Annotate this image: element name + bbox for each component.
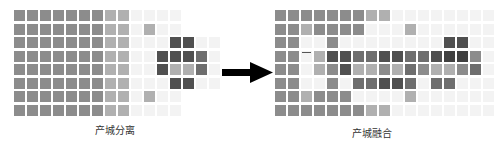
grid-cell bbox=[275, 105, 286, 116]
grid-cell bbox=[444, 64, 455, 75]
grid-cell bbox=[327, 51, 338, 62]
grid-cell bbox=[379, 105, 390, 116]
grid-cell bbox=[418, 78, 429, 89]
grid-cell bbox=[118, 51, 129, 62]
grid-cell bbox=[457, 78, 468, 89]
grid-cell bbox=[301, 78, 312, 89]
grid-cell bbox=[79, 105, 90, 116]
grid-cell bbox=[92, 37, 103, 48]
grid-cell bbox=[40, 105, 51, 116]
grid-cell bbox=[53, 105, 64, 116]
grid-cell bbox=[92, 10, 103, 21]
grid-cell bbox=[301, 105, 312, 116]
grid-cell bbox=[353, 51, 364, 62]
grid-cell bbox=[131, 78, 142, 89]
grid-cell bbox=[79, 91, 90, 102]
grid-cell bbox=[405, 105, 416, 116]
grid-cell bbox=[170, 51, 181, 62]
grid-cell bbox=[353, 78, 364, 89]
grid-cell bbox=[444, 105, 455, 116]
grid-cell bbox=[301, 37, 312, 48]
grid-cell bbox=[392, 10, 403, 21]
grid-cell bbox=[66, 37, 77, 48]
grid-cell bbox=[431, 37, 442, 48]
grid-cell bbox=[79, 24, 90, 35]
grid-cell bbox=[170, 78, 181, 89]
grid-cell bbox=[157, 37, 168, 48]
grid-cell bbox=[66, 24, 77, 35]
grid-cell bbox=[66, 105, 77, 116]
grid-cell bbox=[483, 105, 494, 116]
grid-cell bbox=[483, 24, 494, 35]
grid-cell bbox=[183, 51, 194, 62]
grid-cell bbox=[418, 24, 429, 35]
grid-cell bbox=[144, 24, 155, 35]
grid-cell bbox=[366, 105, 377, 116]
grid-cell bbox=[275, 64, 286, 75]
grid-cell bbox=[105, 10, 116, 21]
grid-cell bbox=[183, 64, 194, 75]
grid-cell bbox=[275, 51, 286, 62]
grid-cell bbox=[144, 37, 155, 48]
grid-cell bbox=[14, 78, 25, 89]
grid-cell bbox=[288, 37, 299, 48]
grid-cell bbox=[470, 64, 481, 75]
grid-cell bbox=[392, 37, 403, 48]
grid-cell bbox=[457, 24, 468, 35]
grid-cell bbox=[118, 37, 129, 48]
grid-cell bbox=[353, 91, 364, 102]
grid-cell bbox=[444, 10, 455, 21]
integration-label: 产城融合 bbox=[352, 125, 392, 140]
grid-cell bbox=[157, 91, 168, 102]
grid-cell bbox=[444, 91, 455, 102]
grid-cell bbox=[53, 64, 64, 75]
grid-cell bbox=[157, 78, 168, 89]
grid-cell bbox=[379, 51, 390, 62]
grid-cell bbox=[157, 24, 168, 35]
grid-cell bbox=[288, 78, 299, 89]
grid-cell bbox=[40, 64, 51, 75]
grid-cell bbox=[27, 91, 38, 102]
grid-cell bbox=[301, 64, 312, 75]
grid-cell bbox=[105, 91, 116, 102]
grid-cell bbox=[366, 24, 377, 35]
grid-cell bbox=[483, 78, 494, 89]
grid-cell bbox=[457, 51, 468, 62]
grid-cell bbox=[79, 37, 90, 48]
grid-cell bbox=[366, 51, 377, 62]
grid-cell bbox=[327, 37, 338, 48]
grid-cell bbox=[157, 105, 168, 116]
grid-cell bbox=[66, 64, 77, 75]
grid-cell bbox=[131, 51, 142, 62]
grid-cell bbox=[14, 91, 25, 102]
grid-cell bbox=[405, 24, 416, 35]
grid-cell bbox=[157, 64, 168, 75]
grid-cell bbox=[14, 64, 25, 75]
grid-cell bbox=[27, 105, 38, 116]
grid-cell bbox=[288, 24, 299, 35]
grid-cell bbox=[340, 10, 351, 21]
grid-cell bbox=[40, 78, 51, 89]
grid-cell bbox=[144, 91, 155, 102]
grid-cell bbox=[327, 24, 338, 35]
grid-cell bbox=[105, 51, 116, 62]
grid-cell bbox=[314, 78, 325, 89]
grid-cell bbox=[53, 10, 64, 21]
grid-cell bbox=[405, 91, 416, 102]
grid-cell bbox=[444, 24, 455, 35]
grid-cell bbox=[431, 91, 442, 102]
grid-cell bbox=[27, 51, 38, 62]
grid-cell bbox=[327, 64, 338, 75]
grid-cell bbox=[131, 24, 142, 35]
grid-cell bbox=[301, 10, 312, 21]
grid-cell bbox=[314, 10, 325, 21]
grid-cell bbox=[340, 64, 351, 75]
grid-cell bbox=[118, 24, 129, 35]
grid-cell bbox=[366, 10, 377, 21]
grid-cell bbox=[92, 91, 103, 102]
grid-cell bbox=[431, 51, 442, 62]
grid-cell bbox=[275, 91, 286, 102]
grid-cell bbox=[470, 91, 481, 102]
grid-cell bbox=[444, 78, 455, 89]
grid-cell bbox=[105, 105, 116, 116]
